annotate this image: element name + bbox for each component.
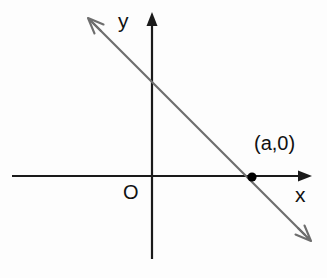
line-arrowhead-lower-right-icon (296, 226, 312, 242)
graph-line (93, 23, 305, 235)
origin-label: O (123, 182, 139, 202)
line-arrowhead-upper-left-icon (88, 18, 104, 34)
x-axis-label: x (295, 184, 306, 205)
y-axis-label: y (118, 10, 129, 31)
x-intercept-point-marker (247, 172, 256, 181)
coordinate-plane-diagram: y x O (a,0) (0, 0, 327, 278)
y-axis-arrowhead-icon (147, 12, 158, 26)
x-axis-arrowhead-icon (298, 171, 312, 182)
x-intercept-label: (a,0) (254, 133, 295, 153)
